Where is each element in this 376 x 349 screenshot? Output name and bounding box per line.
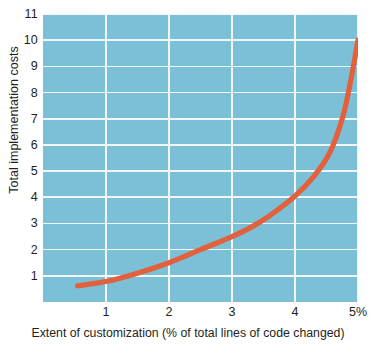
y-axis-tick-label: 11 bbox=[25, 8, 38, 21]
y-axis-tick-label: 7 bbox=[31, 113, 38, 126]
y-axis-tick-label: 10 bbox=[24, 34, 38, 47]
chart-figure: 1234567891011 Total implementation costs… bbox=[0, 0, 376, 349]
y-axis-tick-label: 5 bbox=[31, 165, 38, 178]
y-axis-tick-label: 1 bbox=[31, 270, 38, 283]
y-axis-tick-label: 3 bbox=[31, 217, 38, 230]
cost-curve-svg bbox=[43, 14, 358, 302]
y-axis-tick-label: 8 bbox=[31, 87, 38, 100]
x-axis-title: Extent of customization (% of total line… bbox=[0, 326, 376, 340]
x-axis-tick-label: 1 bbox=[103, 306, 110, 319]
y-axis-tick-label: 4 bbox=[31, 191, 38, 204]
y-axis-tick-label: 2 bbox=[31, 244, 38, 257]
plot-area bbox=[43, 14, 358, 302]
x-axis-tick-label: 2 bbox=[166, 306, 173, 319]
x-axis-tick-label: 3 bbox=[229, 306, 236, 319]
x-axis-tick-label: 5% bbox=[349, 306, 367, 319]
y-axis-tick-label: 6 bbox=[31, 139, 38, 152]
x-axis-tick-labels: 12345% bbox=[0, 306, 376, 326]
y-axis-tick-label: 9 bbox=[31, 60, 38, 73]
y-axis-title: Total implementation costs bbox=[7, 20, 21, 220]
x-axis-tick-label: 4 bbox=[292, 306, 299, 319]
cost-curve-line bbox=[78, 40, 358, 286]
